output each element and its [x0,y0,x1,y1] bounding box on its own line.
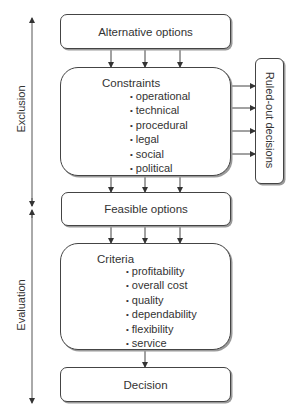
constraint-item: operational [130,90,190,104]
criteria-item: overall cost [126,279,197,293]
criteria-item: flexibility [126,323,197,337]
feasible-options-label: Feasible options [104,203,188,215]
arrows-feasible-to-criteria [111,226,180,243]
alternative-options-node: Alternative options [60,14,231,49]
alternative-options-label: Alternative options [98,26,193,38]
criteria-item: service [126,337,197,351]
criteria-list: profitability overall cost quality depen… [126,265,197,351]
criteria-item: profitability [126,265,197,279]
constraints-title: Constraints [102,77,160,89]
feasible-options-node: Feasible options [61,192,231,226]
constraint-item: procedural [130,119,190,133]
exclusion-label: Exclusion [15,82,27,136]
constraint-item: legal [130,133,190,147]
constraint-item: political [130,162,190,176]
constraint-item: technical [130,104,190,118]
decision-node: Decision [60,367,231,402]
criteria-title: Criteria [97,253,134,265]
criteria-item: quality [126,294,197,308]
criteria-item: dependability [126,308,197,322]
constraints-list: operational technical procedural legal s… [130,90,190,176]
evaluation-label: Evaluation [15,276,27,334]
ruled-out-decisions-label: Ruled-out decisions [264,64,276,176]
arrows-constraints-to-ruled-out [231,86,255,154]
arrows-constraints-to-feasible [111,176,180,192]
arrows-alternatives-to-constraints [111,49,180,67]
decision-label: Decision [123,379,167,391]
constraint-item: social [130,148,190,162]
